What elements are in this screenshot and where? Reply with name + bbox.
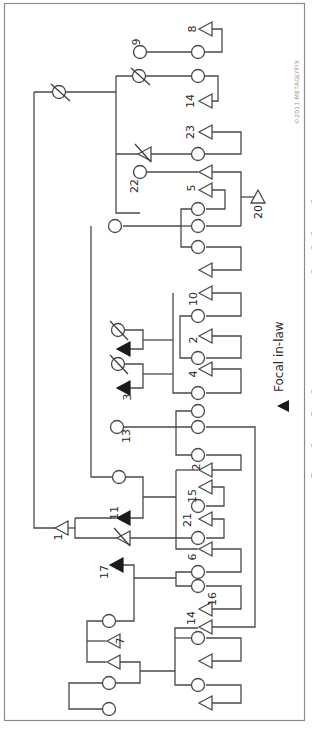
label-7: 7 — [114, 638, 127, 645]
label-16: 16 — [206, 592, 219, 606]
label-13: 13 — [120, 429, 133, 443]
label-14b: 14 — [185, 611, 198, 625]
female-symbol — [192, 580, 205, 593]
label-6: 6 — [186, 554, 199, 561]
kinship-lines — [34, 29, 255, 709]
label-3: 3 — [121, 394, 134, 401]
male-symbol — [199, 696, 212, 710]
female-symbol — [103, 703, 116, 716]
label-14a: 14 — [184, 94, 197, 108]
female-symbol — [192, 46, 205, 59]
female-symbol — [192, 148, 205, 161]
deceased-male-symbol — [135, 144, 151, 162]
female-symbol — [192, 241, 205, 254]
label-2a: 2 — [187, 337, 200, 344]
female-symbol — [192, 203, 205, 216]
female-symbol — [103, 677, 116, 690]
male-symbol — [199, 512, 212, 526]
male-symbol — [199, 125, 212, 139]
female-symbol — [192, 566, 205, 579]
caption-fragments — [311, 200, 312, 478]
legend-label: Focal in-law — [272, 321, 286, 392]
label-8: 8 — [186, 26, 199, 33]
female-symbol — [192, 352, 205, 365]
male-symbol — [199, 94, 212, 108]
label-21: 21 — [181, 513, 194, 527]
focal-in-law-symbol — [117, 342, 130, 356]
label-4: 4 — [187, 371, 200, 378]
female-symbol — [109, 220, 122, 233]
label-10: 10 — [187, 292, 200, 306]
label-9: 9 — [130, 39, 143, 46]
figure-border — [5, 4, 305, 721]
female-symbol — [192, 421, 205, 434]
female-symbol — [134, 166, 147, 179]
label-11: 11 — [108, 506, 121, 520]
female-symbol — [113, 471, 126, 484]
label-20: 20 — [252, 205, 265, 219]
deceased-male-symbol — [114, 528, 130, 546]
label-23: 23 — [184, 125, 197, 139]
legend: Focal in-law — [272, 321, 289, 412]
male-symbol — [199, 183, 212, 197]
female-symbol — [192, 632, 205, 645]
female-symbol — [192, 70, 205, 83]
copyright: ©2011 METAGLYFIX — [293, 60, 300, 124]
male-symbol — [199, 654, 212, 668]
label-5: 5 — [185, 185, 198, 192]
male-symbol — [199, 286, 212, 300]
female-symbol — [192, 679, 205, 692]
label-15: 15 — [186, 489, 199, 503]
male-symbol — [199, 480, 212, 494]
focal-in-law-legend-icon — [277, 400, 289, 412]
female-symbol — [134, 46, 147, 59]
female-symbol — [192, 532, 205, 545]
female-symbol — [103, 615, 116, 628]
male-symbol — [107, 655, 120, 669]
node-labels: 9 8 14 23 22 5 20 10 2 4 3 13 2 15 21 11… — [52, 26, 265, 645]
focal-in-law-symbol — [117, 381, 130, 395]
male-symbol — [55, 521, 68, 535]
kinship-diagram: 9 8 14 23 22 5 20 10 2 4 3 13 2 15 21 11… — [0, 0, 312, 738]
female-symbol — [192, 310, 205, 323]
label-17: 17 — [98, 565, 111, 579]
female-symbol — [192, 220, 205, 233]
male-symbol — [199, 329, 212, 343]
label-2b: 2 — [190, 464, 203, 471]
female-symbol — [192, 449, 205, 462]
label-1: 1 — [52, 534, 65, 541]
male-symbol — [199, 165, 212, 179]
male-symbol — [199, 263, 212, 277]
label-22: 22 — [128, 179, 141, 193]
male-symbol — [199, 22, 212, 36]
female-symbol — [192, 387, 205, 400]
focal-in-law-symbol — [110, 558, 123, 572]
female-symbol — [192, 405, 205, 418]
